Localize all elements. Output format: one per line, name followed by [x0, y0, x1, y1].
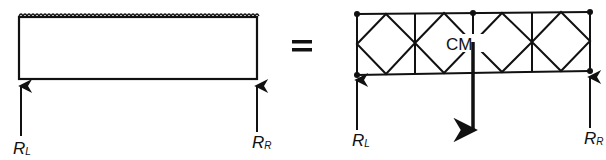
- truss-reaction-label-right: RR: [584, 129, 604, 148]
- distributed-load-icon: [19, 14, 259, 16]
- truss-reaction-label-left: RL: [352, 131, 370, 150]
- beam-equivalence-diagram: RL RR CM RL RR: [0, 0, 606, 160]
- reaction-label-left: RL: [13, 139, 31, 158]
- center-of-mass-label: CM: [446, 35, 472, 54]
- reaction-label-right: RR: [252, 133, 272, 152]
- loaded-beam: RL RR: [13, 14, 272, 158]
- equals-sign: [292, 40, 312, 52]
